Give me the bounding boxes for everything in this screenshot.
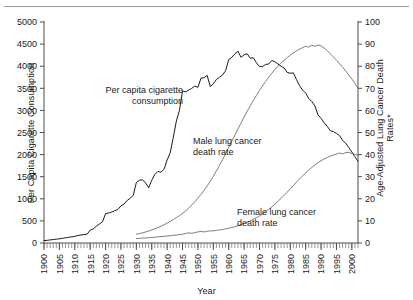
- x-axis-tick-label: 1960: [224, 254, 234, 274]
- y-axis-left-tick-label: 0: [32, 238, 37, 248]
- y-axis-right-tick-label: 20: [365, 194, 375, 204]
- y-axis-left-tick-label: 4000: [17, 61, 37, 71]
- y-axis-left-tick-label: 5000: [17, 17, 37, 27]
- x-axis-tick-label: 1920: [101, 254, 111, 274]
- x-axis-tick-label: 1955: [209, 254, 219, 274]
- plot-area: 0500100015002000250030003500400045005000…: [0, 0, 413, 300]
- annot-cigarette-line1: Per capita cigarette: [105, 85, 183, 95]
- annot-male: Male lung cancerdeath rate: [193, 136, 262, 157]
- y-axis-right-tick-label: 50: [365, 128, 375, 138]
- x-axis-tick-label: 1935: [147, 254, 157, 274]
- x-axis-tick-label: 1925: [116, 254, 126, 274]
- y-axis-right-tick-label: 0: [365, 238, 370, 248]
- x-axis-tick-label: 1970: [255, 254, 265, 274]
- y-axis-right-tick-label: 100: [365, 17, 380, 27]
- chart-figure: Per Capita Cigarette Consumption Age-Adj…: [0, 0, 413, 300]
- y-axis-right-tick-label: 10: [365, 216, 375, 226]
- x-axis-tick-label: 1990: [316, 254, 326, 274]
- y-axis-left-tick-label: 1500: [17, 172, 37, 182]
- y-axis-left-tick-label: 500: [22, 216, 37, 226]
- y-axis-left-tick-label: 4500: [17, 39, 37, 49]
- x-axis-tick-label: 1985: [301, 254, 311, 274]
- series-annotations-group: Per capita cigaretteconsumptionMale lung…: [105, 85, 316, 228]
- x-axis-tick-label: 1975: [270, 254, 280, 274]
- y-axis-left: 0500100015002000250030003500400045005000: [17, 17, 44, 248]
- x-axis-tick-label: 1930: [132, 254, 142, 274]
- annot-female: Female lung cancerdeath rate: [237, 207, 316, 228]
- x-axis-tick-label: 1905: [55, 254, 65, 274]
- x-axis-tick-label: 1945: [178, 254, 188, 274]
- x-axis-tick-label: 1980: [286, 254, 296, 274]
- y-axis-left-tick-label: 2500: [17, 128, 37, 138]
- y-axis-right-tick-label: 80: [365, 61, 375, 71]
- annot-female-line2: death rate: [237, 218, 278, 228]
- annot-cigarette: Per capita cigaretteconsumption: [105, 85, 183, 106]
- y-axis-right-tick-label: 40: [365, 150, 375, 160]
- annot-male-line2: death rate: [193, 147, 234, 157]
- x-axis-tick-label: 1910: [70, 254, 80, 274]
- y-axis-left-tick-label: 2000: [17, 150, 37, 160]
- y-axis-left-tick-label: 1000: [17, 194, 37, 204]
- x-axis-tick-label: 1950: [193, 254, 203, 274]
- x-axis-tick-label: 2000: [347, 254, 357, 274]
- y-axis-right-tick-label: 60: [365, 106, 375, 116]
- x-axis-tick-label: 1995: [332, 254, 342, 274]
- y-axis-right: 0102030405060708090100: [358, 17, 380, 248]
- y-axis-right-tick-label: 30: [365, 172, 375, 182]
- x-axis-tick-label: 1915: [86, 254, 96, 274]
- annot-cigarette-line2: consumption: [132, 96, 183, 106]
- x-axis-tick-label: 1940: [163, 254, 173, 274]
- x-axis: 1900190519101915192019251930193519401945…: [39, 243, 358, 274]
- y-axis-right-tick-label: 90: [365, 39, 375, 49]
- annot-female-line1: Female lung cancer: [237, 207, 316, 217]
- x-axis-tick-label: 1900: [39, 254, 49, 274]
- y-axis-right-tick-label: 70: [365, 84, 375, 94]
- y-axis-left-tick-label: 3500: [17, 84, 37, 94]
- y-axis-left-tick-label: 3000: [17, 106, 37, 116]
- x-axis-tick-label: 1965: [239, 254, 249, 274]
- annot-male-line1: Male lung cancer: [193, 136, 262, 146]
